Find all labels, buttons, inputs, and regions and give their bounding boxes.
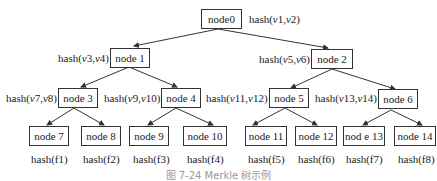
hash-label-2: hash(v5,v6) xyxy=(259,52,310,66)
tree-node-7: node 7 xyxy=(29,126,69,146)
tree-node-5: node 5 xyxy=(269,88,309,108)
tree-node-11: node 11 xyxy=(245,126,287,146)
hash-label-12: hash(f6) xyxy=(298,152,335,166)
hash-label-14: hash(f8) xyxy=(398,152,435,166)
hash-label-4: hash(v9,v10) xyxy=(104,91,161,105)
tree-node-13: nod e 13 xyxy=(343,126,385,146)
tree-node-9: node 9 xyxy=(129,126,169,146)
tree-node-1: node 1 xyxy=(110,48,150,68)
tree-node-2: node 2 xyxy=(311,49,353,69)
tree-node-10: node 10 xyxy=(183,126,227,146)
hash-label-9: hash(f3) xyxy=(133,152,170,166)
hash-label-11: hash(f5) xyxy=(248,152,285,166)
tree-node-8: node 8 xyxy=(81,126,121,146)
hash-label-13: hash(f7) xyxy=(346,152,383,166)
figure-caption: 图 7-24 Merkle 树示例 xyxy=(0,167,437,181)
hash-label-6: hash(v13,v14) xyxy=(315,91,377,105)
hash-label-8: hash(f2) xyxy=(83,152,120,166)
tree-node-12: node 12 xyxy=(295,126,337,146)
tree-node-3: node 3 xyxy=(58,88,98,108)
merkle-tree-diagram: node0 hash(v1,v2) node 1 hash(v3,v4) nod… xyxy=(0,0,437,181)
hash-label-10: hash(f4) xyxy=(187,152,224,166)
hash-label-5: hash(v11,v12) xyxy=(206,91,268,105)
hash-label-1: hash(v3,v4) xyxy=(58,51,109,65)
hash-label-0: hash(v1,v2) xyxy=(249,12,300,26)
tree-node-0: node0 xyxy=(201,9,242,29)
tree-node-4: node 4 xyxy=(161,88,201,108)
hash-label-7: hash(f1) xyxy=(31,152,68,166)
tree-node-14: node 14 xyxy=(394,126,436,146)
hash-label-3: hash(v7,v8) xyxy=(6,91,57,105)
tree-node-6: node 6 xyxy=(378,89,418,109)
